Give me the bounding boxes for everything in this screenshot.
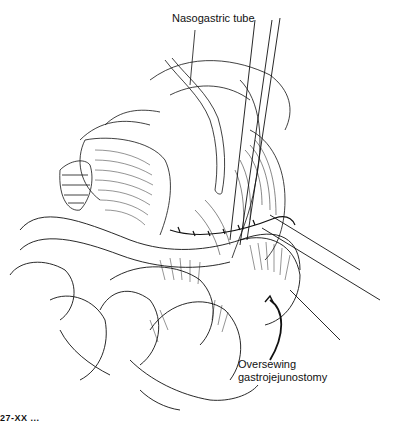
loop-hatching [150,242,290,342]
label-nasogastric-tube: Nasogastric tube [172,12,255,25]
figure-caption-fragment: 27-XX ... [0,413,40,423]
label-oversewing-gastrojejunostomy: Oversewing gastrojejunostomy [238,358,327,384]
surgical-illustration [0,0,400,424]
retractor-lines [230,18,380,340]
pouch-hatching [95,150,153,225]
label-line-2: gastrojejunostomy [238,371,327,384]
gastrojejunostomy-drawing [0,0,400,424]
nasogastric-leader [190,30,195,85]
oversewing-arrow [270,300,281,360]
gastric-pouch [60,138,171,235]
nasogastric-tube [165,58,225,194]
label-line-1: Oversewing [238,358,327,371]
leader-lines [190,30,281,360]
